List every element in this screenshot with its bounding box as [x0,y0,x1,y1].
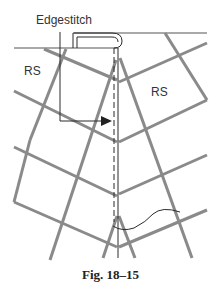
fold-loop [73,33,122,48]
edgestitch-label: Edgestitch [36,13,92,27]
edgestitch-callout [60,32,112,126]
fabric-edges [14,33,207,48]
arrow-head-icon [101,116,112,126]
rs-left-label: RS [24,64,41,78]
rs-right-label: RS [151,85,168,99]
figure-18-15: Edgestitch RS RS Fig. 18–15 [0,0,218,283]
left-plaid [14,49,117,260]
seam-diagram: Edgestitch RS RS Fig. 18–15 [0,0,218,283]
right-plaid [119,33,207,258]
figure-caption: Fig. 18–15 [82,267,140,282]
